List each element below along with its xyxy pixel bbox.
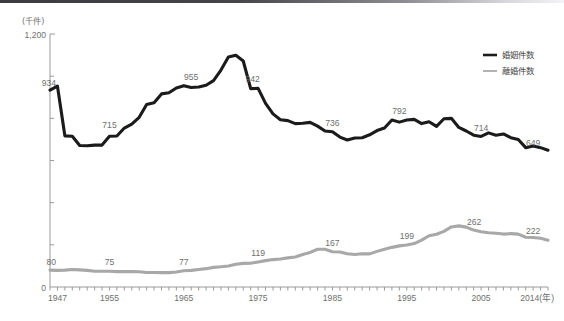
x-tick-label-2014: 2014(年)	[520, 292, 554, 303]
legend-label-divorces: 離婚件数	[502, 66, 535, 76]
data-label-2014: 649	[526, 138, 541, 148]
x-axis-tick-labels: 19471955196519751985199520052014(年)	[48, 292, 554, 303]
chart-axes	[50, 34, 548, 291]
y-tick-label-0: 0	[41, 283, 46, 293]
series-line-marriages	[50, 55, 548, 150]
x-tick-label-1995: 1995	[397, 293, 416, 303]
data-label-1974: 942	[246, 74, 261, 84]
data-label-2003: 262	[467, 217, 482, 227]
x-tick-label-2005: 2005	[472, 293, 491, 303]
data-label-1985: 167	[325, 238, 340, 248]
data-label-1955: 715	[102, 120, 117, 130]
data-label-1985: 736	[325, 118, 340, 128]
x-tick-label-1965: 1965	[174, 293, 193, 303]
data-label-1975: 119	[251, 248, 265, 258]
y-axis-unit-label: (千件)	[22, 16, 44, 26]
data-label-2005: 714	[474, 123, 489, 133]
chart-series-group	[50, 55, 548, 272]
y-axis-tick-labels: 1,2000	[24, 30, 46, 293]
x-tick-label-1955: 1955	[100, 293, 119, 303]
chart-canvas: 9347159559427367927146498075771191671992…	[0, 0, 564, 321]
data-label-1966: 955	[184, 72, 199, 82]
data-label-1965: 77	[179, 257, 189, 267]
x-tick-label-1985: 1985	[323, 293, 342, 303]
data-label-1947: 80	[46, 257, 56, 267]
data-label-1995: 199	[400, 231, 415, 241]
line-chart: 9347159559427367927146498075771191671992…	[0, 0, 564, 321]
data-label-1994: 792	[392, 106, 407, 116]
y-tick-label-1200: 1,200	[24, 30, 46, 40]
x-tick-label-1975: 1975	[249, 293, 268, 303]
series-line-divorces	[50, 226, 548, 273]
data-label-2014: 222	[526, 226, 541, 236]
data-label-1947: 934	[42, 78, 57, 88]
legend-label-marriages: 婚姻件数	[502, 50, 535, 60]
chart-data-labels: 9347159559427367927146498075771191671992…	[42, 72, 541, 268]
x-tick-label-1947: 1947	[48, 293, 67, 303]
chart-legend: 婚姻件数離婚件数	[483, 50, 535, 76]
data-label-1955: 75	[105, 257, 115, 267]
